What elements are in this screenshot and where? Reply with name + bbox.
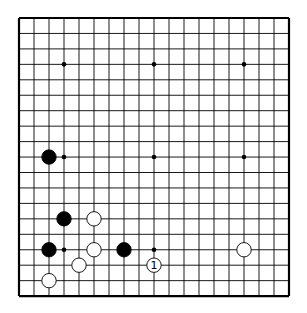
star-point-icon — [62, 247, 67, 252]
white-stone — [42, 273, 56, 287]
white-stone: 1 — [147, 258, 161, 272]
star-point-icon — [62, 62, 67, 67]
black-stone — [117, 243, 131, 257]
go-board: 1 — [0, 0, 307, 313]
star-point-icon — [242, 62, 247, 67]
white-stone — [237, 243, 251, 257]
star-point-icon — [152, 155, 157, 160]
white-stone — [87, 243, 101, 257]
black-stone — [42, 243, 56, 257]
star-point-icon — [152, 62, 157, 67]
black-stone — [42, 150, 56, 164]
move-number-label: 1 — [151, 259, 158, 272]
black-stone — [57, 212, 71, 226]
star-point-icon — [62, 155, 67, 160]
star-point-icon — [242, 155, 247, 160]
star-point-icon — [152, 247, 157, 252]
white-stone — [87, 212, 101, 226]
white-stone — [72, 258, 86, 272]
